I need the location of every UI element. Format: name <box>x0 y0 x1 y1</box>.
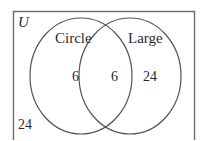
venn-diagram: U Circle Large 6 6 24 24 <box>0 0 201 140</box>
large-only-count: 24 <box>143 70 157 84</box>
universal-set-label: U <box>18 15 29 30</box>
circle-only-count: 6 <box>72 70 79 84</box>
large-set-label: Large <box>128 31 163 46</box>
universal-set-rectangle <box>14 12 195 141</box>
intersection-count: 6 <box>111 70 118 84</box>
circle-set-label: Circle <box>55 31 92 46</box>
outside-sets-count: 24 <box>18 118 32 132</box>
